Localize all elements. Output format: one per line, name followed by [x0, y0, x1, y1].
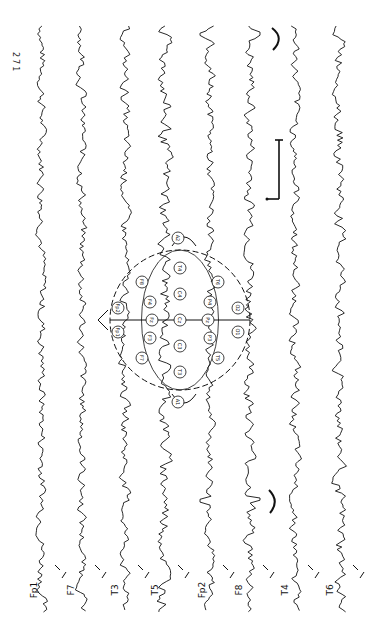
- arc-mark-top: [272, 28, 279, 50]
- tick-mark: [270, 572, 274, 578]
- channel-label-t4: T4: [280, 584, 290, 595]
- channel-label-fp2: Fp2: [197, 582, 207, 599]
- tick-mark: [308, 565, 313, 570]
- channel-tick-marks: [55, 565, 364, 578]
- electrode-label-t5: T5: [215, 354, 221, 361]
- electrode-label-a2: A2: [175, 235, 181, 242]
- electrode-label-f3: F3: [147, 335, 153, 341]
- channel-label-t5: T5: [150, 584, 160, 595]
- eeg-trace-t3-t5: [119, 26, 132, 610]
- electrode-label-fz: Fz: [149, 317, 155, 323]
- tick-mark: [360, 572, 364, 578]
- channel-label-t6: T6: [325, 584, 335, 595]
- electrode-label-f7: F7: [139, 355, 145, 361]
- eeg-trace-t6-o2: [332, 26, 347, 612]
- eeg-traces: [36, 26, 347, 612]
- tick-mark: [95, 565, 100, 570]
- eeg-trace-t4-t6: [289, 26, 301, 611]
- tick-mark: [138, 565, 143, 570]
- electrode-label-t4: T4: [177, 264, 183, 271]
- tick-mark: [230, 572, 234, 578]
- eeg-trace-fp1-f7: [36, 26, 48, 612]
- tick-mark: [263, 565, 268, 570]
- electrode-label-fp1: Fp1: [114, 327, 121, 336]
- eeg-figure: Fp1Fp2F7F3FzF4F8A1T3C3CzC4T4A2T5P3PzP4T6…: [0, 0, 366, 642]
- electrode-label-p3: P3: [207, 335, 213, 341]
- electrode-label-f4: F4: [147, 299, 153, 305]
- channel-label-fp1: Fp1: [29, 582, 39, 599]
- tick-mark: [178, 565, 183, 570]
- tick-mark: [102, 572, 106, 578]
- tick-mark: [315, 572, 319, 578]
- electrode-label-cz: Cz: [177, 317, 183, 323]
- channel-label-t3: T3: [110, 584, 120, 595]
- electrode-label-fp2: Fp2: [114, 303, 121, 312]
- calibration-end: [266, 198, 269, 201]
- channel-label-f7: F7: [66, 585, 76, 596]
- calibration-bar: [266, 140, 284, 201]
- channel-label-f8: F8: [234, 585, 244, 596]
- tick-mark: [223, 565, 228, 570]
- tick-mark: [55, 565, 60, 570]
- electrode-label-pz: Pz: [205, 317, 211, 323]
- head-diagram: Fp1Fp2F7F3FzF4F8A1T3C3CzC4T4A2T5P3PzP4T6…: [98, 232, 250, 408]
- tick-mark: [62, 572, 66, 578]
- electrode-label-o1: O1: [235, 328, 241, 335]
- electrode-label-c4: C4: [177, 291, 183, 298]
- electrode-label-a1: A1: [175, 399, 181, 406]
- electrode-label-o2: O2: [235, 304, 241, 311]
- electrode-label-t6: T6: [215, 278, 221, 285]
- nose-icon: [98, 310, 108, 330]
- electrode-label-f8: F8: [139, 279, 145, 285]
- eeg-trace-f8-t4: [243, 26, 260, 612]
- tick-mark: [145, 572, 149, 578]
- electrode-label-t3: T3: [177, 368, 183, 375]
- arc-mark-bottom: [269, 490, 275, 513]
- tick-mark: [353, 565, 358, 570]
- electrode-label-p4: P4: [207, 299, 213, 305]
- tick-mark: [185, 572, 189, 578]
- eeg-trace-t5-o1: [157, 26, 173, 612]
- eeg-trace-f7-t3: [75, 26, 87, 611]
- electrode-label-c3: C3: [177, 343, 183, 350]
